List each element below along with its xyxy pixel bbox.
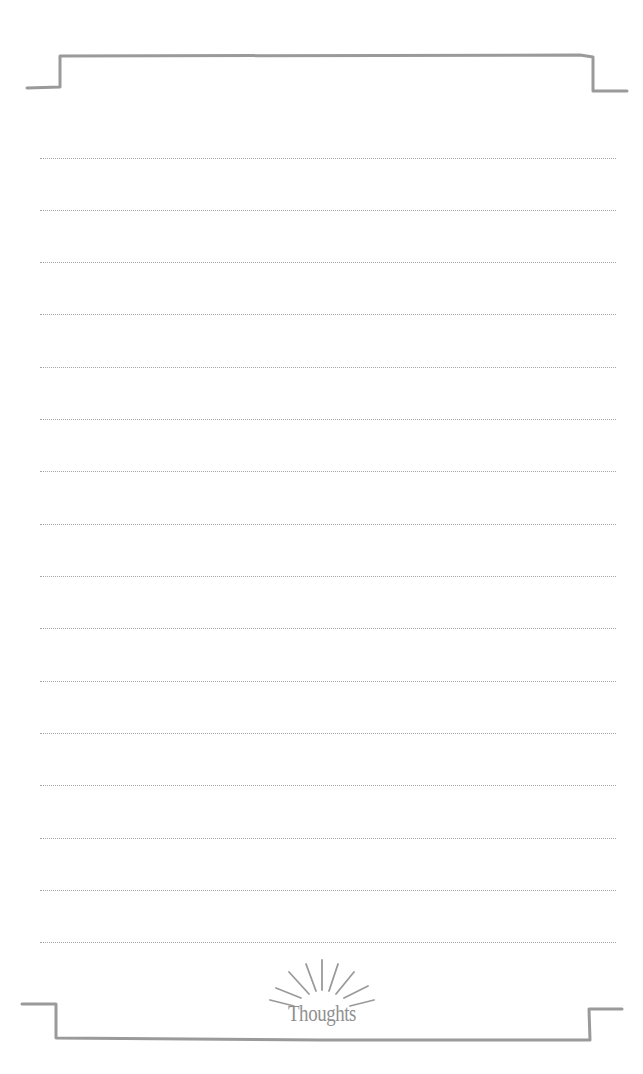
writing-line[interactable]	[40, 419, 616, 420]
writing-line[interactable]	[40, 471, 616, 472]
writing-line[interactable]	[40, 785, 616, 786]
writing-line[interactable]	[40, 314, 616, 315]
writing-line[interactable]	[40, 890, 616, 891]
writing-line[interactable]	[40, 628, 616, 629]
writing-line[interactable]	[40, 733, 616, 734]
writing-line[interactable]	[40, 210, 616, 211]
writing-line[interactable]	[40, 524, 616, 525]
writing-line[interactable]	[40, 262, 616, 263]
writing-line[interactable]	[40, 942, 616, 943]
footer-label: Thoughts	[266, 1001, 378, 1027]
writing-line[interactable]	[40, 367, 616, 368]
writing-line[interactable]	[40, 838, 616, 839]
writing-line[interactable]	[40, 681, 616, 682]
writing-line[interactable]	[40, 576, 616, 577]
writing-line[interactable]	[40, 158, 616, 159]
footer-emblem: Thoughts	[254, 958, 390, 1038]
ruled-lines	[40, 0, 616, 1074]
